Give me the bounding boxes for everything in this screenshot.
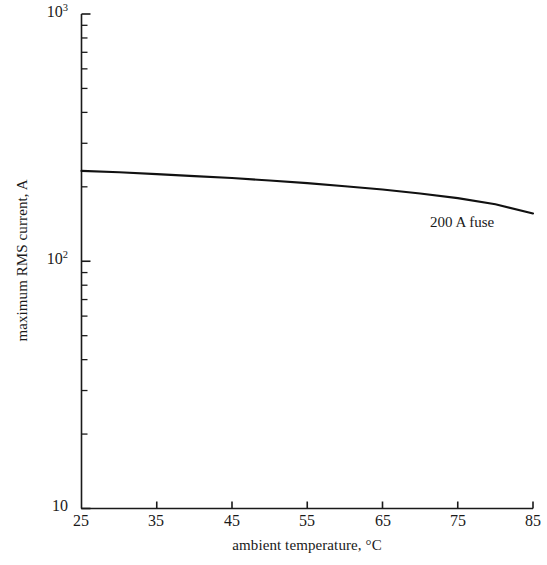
plot-area — [0, 0, 547, 565]
chart-figure: maximum RMS current, A ambient temperatu… — [0, 0, 547, 565]
y-axis-ticks — [82, 14, 91, 509]
x-axis-ticks — [157, 502, 533, 509]
axis-lines — [81, 14, 533, 509]
data-curve-200a-fuse — [82, 171, 534, 214]
